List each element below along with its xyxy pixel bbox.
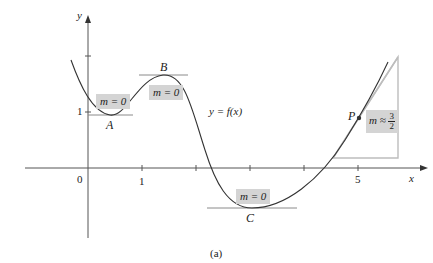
slope-label-a: m = 0 — [96, 94, 130, 109]
x-tick-label-1: 1 — [139, 176, 145, 187]
slope-label-p: m ≈ 3 2 — [366, 110, 398, 133]
point-p-marker — [357, 116, 361, 120]
slope-label-c: m = 0 — [236, 189, 270, 204]
derivative-graph-figure: y x 0 1 5 1 y = f(x) A B C P m = 0 m = 0… — [0, 0, 433, 263]
point-b-label: B — [160, 61, 167, 73]
y-tick-label-1: 1 — [77, 106, 83, 117]
slope-text-b: m = 0 — [153, 86, 179, 98]
x-axis-label: x — [409, 173, 414, 184]
slope-denominator: 2 — [388, 122, 395, 131]
slope-prefix-p: m ≈ — [369, 114, 386, 126]
figure-caption: (a) — [210, 248, 222, 259]
function-label: y = f(x) — [209, 106, 242, 117]
origin-label: 0 — [77, 174, 83, 185]
x-tick-label-5: 5 — [355, 174, 361, 185]
point-p-label: P — [348, 110, 355, 122]
slope-label-b: m = 0 — [149, 85, 183, 100]
y-axis-label: y — [77, 10, 82, 21]
slope-fraction-p: 3 2 — [388, 112, 395, 131]
slope-text-a: m = 0 — [100, 95, 126, 107]
point-c-label: C — [246, 212, 254, 224]
x-axis-arrow-icon — [420, 165, 428, 171]
y-axis-arrow-icon — [85, 15, 91, 23]
point-a-label: A — [106, 119, 113, 131]
slope-text-c: m = 0 — [240, 190, 266, 202]
function-curve — [71, 60, 388, 208]
